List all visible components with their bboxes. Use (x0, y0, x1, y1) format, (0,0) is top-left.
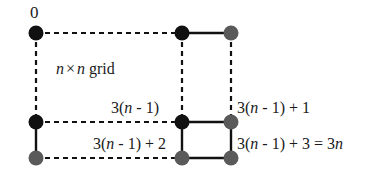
label-vertex-3n-minus-1-plus-2: 3(n - 1) + 2 (93, 136, 166, 152)
node-bottom-left-gray[interactable] (29, 151, 44, 166)
grid-var-first: n (56, 60, 64, 77)
node-top-left-black[interactable] (29, 26, 44, 41)
lbl-c-post: - 1) + 2 (114, 135, 166, 152)
label-vertex-3n-minus-1-plus-3: 3(n - 1) + 3 = 3n (237, 136, 343, 152)
grid-word: grid (89, 60, 115, 77)
lbl-b-post: - 1) + 1 (258, 99, 310, 116)
label-vertex-3n-minus-1: 3(n - 1) (111, 100, 159, 116)
grid-times-symbol: × (64, 60, 77, 77)
lbl-c-pre: 3( (93, 135, 106, 152)
label-grid-size: n×n grid (56, 61, 115, 77)
node-middle-right-gray[interactable] (224, 115, 239, 130)
grid-var-second: n (77, 60, 85, 77)
lbl-d-post: - 1) + 3 = 3 (258, 135, 335, 152)
node-middle-left-black[interactable] (29, 115, 44, 130)
label-vertex-3n-minus-1-plus-1: 3(n - 1) + 1 (237, 100, 310, 116)
graph-canvas (0, 0, 374, 180)
lbl-b-pre: 3( (237, 99, 250, 116)
node-middle-center-black[interactable] (175, 115, 190, 130)
node-top-right-gray[interactable] (224, 26, 239, 41)
node-top-middle-black[interactable] (175, 26, 190, 41)
lbl-a-pre: 3( (111, 99, 124, 116)
lbl-d-var2: n (335, 135, 343, 152)
lbl-d-pre: 3( (237, 135, 250, 152)
label-origin-zero: 0 (30, 4, 39, 21)
grid-graph-figure: 0 n×n grid 3(n - 1) 3(n - 1) + 1 3(n - 1… (0, 0, 374, 180)
lbl-a-post: - 1) (132, 99, 159, 116)
node-bottom-middle-gray[interactable] (175, 151, 190, 166)
node-bottom-right-gray[interactable] (224, 151, 239, 166)
